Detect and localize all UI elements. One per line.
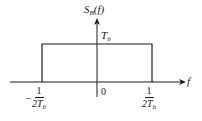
- right-den-sub: b: [153, 103, 157, 111]
- left-tick-denominator: 2Tb: [32, 98, 46, 111]
- left-den-sub: b: [43, 103, 47, 111]
- left-den-main: 2T: [32, 98, 43, 109]
- y-axis-label: SB(f): [84, 4, 104, 17]
- right-tick-label: 1 2Tb: [142, 86, 156, 111]
- height-label-sub: b: [107, 35, 111, 43]
- origin-label: 0: [101, 86, 106, 97]
- left-tick-sign: −: [25, 92, 31, 104]
- y-label-arg: (f): [94, 3, 104, 15]
- right-den-main: 2T: [142, 98, 153, 109]
- x-axis-label: f: [187, 76, 190, 87]
- height-label: Tb: [101, 30, 111, 43]
- left-tick-numerator: 1: [35, 86, 44, 98]
- right-tick-denominator: 2Tb: [142, 98, 156, 111]
- right-tick-numerator: 1: [145, 86, 154, 98]
- left-tick-label: 1 2Tb: [32, 86, 46, 111]
